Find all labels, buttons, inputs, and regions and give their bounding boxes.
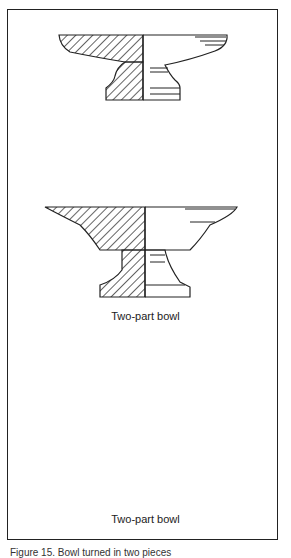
figure-caption: Figure 15. Bowl turned in two pieces (10, 547, 171, 558)
bowl-1-drawing (59, 35, 227, 100)
bowl-3-label: Two-part bowl (0, 513, 291, 525)
bowl-2-drawing (45, 207, 237, 297)
bowl-2-label: Two-part bowl (0, 310, 291, 322)
